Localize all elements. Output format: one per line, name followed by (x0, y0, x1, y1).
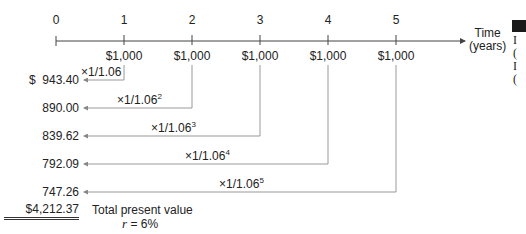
present-value-2: 890.00 (0, 101, 79, 115)
tick-label-1: 1 (121, 13, 128, 27)
discount-factor-1: ×1/1.06 (81, 64, 121, 79)
factor-exponent: 4 (225, 148, 229, 157)
discount-path-5 (84, 65, 396, 192)
side-heading-block (512, 20, 526, 32)
tick-label-4: 4 (325, 13, 332, 27)
factor-base: ×1/1.06 (185, 149, 225, 163)
tick-label-0: 0 (53, 13, 60, 27)
present-value-1: $ 943.40 (0, 73, 79, 87)
factor-exponent: 5 (259, 176, 263, 185)
factor-base: ×1/1.06 (81, 65, 121, 79)
cash-flow-4: $1,000 (310, 49, 347, 63)
tick-label-3: 3 (257, 13, 264, 27)
present-value-3: 839.62 (0, 129, 79, 143)
cash-flow-2: $1,000 (174, 49, 211, 63)
factor-base: ×1/1.06 (151, 121, 191, 135)
factor-base: ×1/1.06 (219, 177, 259, 191)
axis-title: Time (years) (469, 27, 506, 53)
factor-exponent: 3 (191, 120, 195, 129)
present-value-5: 747.26 (0, 185, 79, 199)
tick-label-2: 2 (189, 13, 196, 27)
cash-flow-3: $1,000 (242, 49, 279, 63)
rate-value: = 6% (127, 217, 158, 231)
cash-flow-5: $1,000 (378, 49, 415, 63)
factor-base: ×1/1.06 (117, 93, 157, 107)
cash-flow-1: $1,000 (106, 49, 143, 63)
factor-exponent: 2 (157, 92, 161, 101)
discount-factor-2: ×1/1.062 (117, 92, 162, 107)
discount-factor-5: ×1/1.065 (219, 176, 264, 191)
discount-factor-4: ×1/1.064 (185, 148, 230, 163)
axis-title-line2: (years) (469, 40, 506, 53)
tick-label-5: 5 (393, 13, 400, 27)
total-present-value: $4,212.37 (4, 203, 79, 220)
total-label: Total present value (92, 203, 193, 217)
discount-rate: r = 6% (122, 216, 158, 232)
discount-factor-3: ×1/1.063 (151, 120, 196, 135)
side-text-4: ( (513, 73, 517, 86)
present-value-4: 792.09 (0, 157, 79, 171)
